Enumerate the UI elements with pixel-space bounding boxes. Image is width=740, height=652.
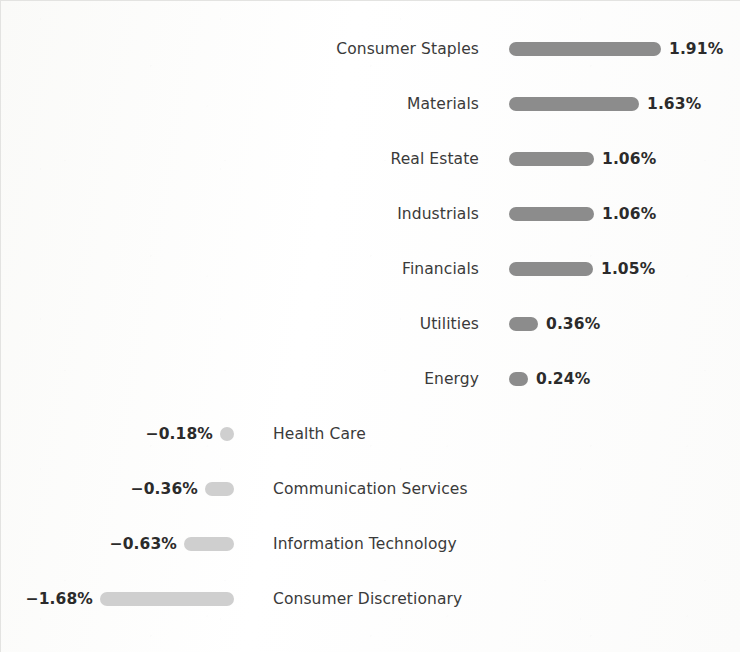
- chart-row: −1.68%Consumer Discretionary: [1, 584, 740, 614]
- chart-row: −0.63%Information Technology: [1, 529, 740, 559]
- positive-bar-group: 1.05%: [509, 254, 655, 284]
- negative-bar-group: −0.63%: [1, 529, 234, 559]
- category-label: Real Estate: [391, 150, 480, 168]
- chart-row: −0.18%Health Care: [1, 419, 740, 449]
- bar-positive: [509, 262, 593, 276]
- positive-bar-group: 1.63%: [509, 89, 701, 119]
- chart-row: Energy0.24%: [1, 364, 740, 394]
- positive-bar-group: 1.06%: [509, 144, 656, 174]
- chart-row: Financials1.05%: [1, 254, 740, 284]
- sector-performance-bar-chart: Consumer Staples1.91%Materials1.63%Real …: [1, 1, 740, 652]
- positive-bar-group: 0.24%: [509, 364, 590, 394]
- bar-positive: [509, 152, 594, 166]
- category-label: Financials: [402, 260, 479, 278]
- category-label: Consumer Staples: [336, 40, 479, 58]
- bar-negative: [205, 482, 234, 496]
- category-label: Industrials: [397, 205, 479, 223]
- bar-negative: [100, 592, 234, 606]
- bar-value-label: 1.91%: [669, 40, 723, 58]
- positive-bar-group: 1.06%: [509, 199, 656, 229]
- bar-positive: [509, 372, 528, 386]
- category-label: Communication Services: [273, 480, 468, 498]
- category-label: Health Care: [273, 425, 366, 443]
- category-label: Materials: [407, 95, 479, 113]
- category-label: Utilities: [420, 315, 479, 333]
- bar-positive: [509, 317, 538, 331]
- bar-negative: [184, 537, 234, 551]
- bar-value-label: 1.06%: [602, 150, 656, 168]
- chart-row: Consumer Staples1.91%: [1, 34, 740, 64]
- negative-bar-group: −1.68%: [1, 584, 234, 614]
- category-label: Information Technology: [273, 535, 457, 553]
- bar-value-label: 1.05%: [601, 260, 655, 278]
- chart-row: Utilities0.36%: [1, 309, 740, 339]
- chart-row: −0.36%Communication Services: [1, 474, 740, 504]
- bar-negative: [220, 427, 234, 441]
- bar-positive: [509, 207, 594, 221]
- bar-value-label: −1.68%: [26, 590, 93, 608]
- bar-value-label: 1.06%: [602, 205, 656, 223]
- negative-bar-group: −0.18%: [1, 419, 234, 449]
- bar-value-label: −0.63%: [110, 535, 177, 553]
- bar-value-label: −0.18%: [146, 425, 213, 443]
- category-label: Energy: [424, 370, 479, 388]
- chart-row: Industrials1.06%: [1, 199, 740, 229]
- negative-bar-group: −0.36%: [1, 474, 234, 504]
- chart-row: Real Estate1.06%: [1, 144, 740, 174]
- positive-bar-group: 1.91%: [509, 34, 723, 64]
- bar-positive: [509, 42, 661, 56]
- chart-page: Consumer Staples1.91%Materials1.63%Real …: [0, 0, 740, 652]
- bar-value-label: 1.63%: [647, 95, 701, 113]
- positive-bar-group: 0.36%: [509, 309, 600, 339]
- bar-value-label: −0.36%: [131, 480, 198, 498]
- bar-value-label: 0.24%: [536, 370, 590, 388]
- bar-value-label: 0.36%: [546, 315, 600, 333]
- category-label: Consumer Discretionary: [273, 590, 462, 608]
- bar-positive: [509, 97, 639, 111]
- chart-row: Materials1.63%: [1, 89, 740, 119]
